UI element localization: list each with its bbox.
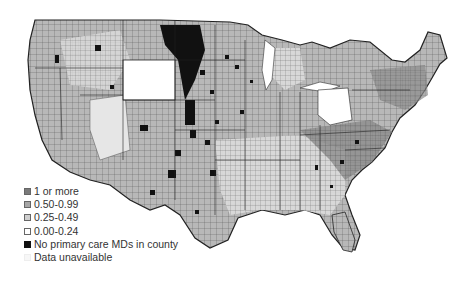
legend-item-0-00-0-24: 0.00-0.24 (24, 225, 178, 238)
legend-label: 0.25-0.49 (34, 211, 78, 224)
legend-swatch (24, 214, 31, 221)
legend-item-1-or-more: 1 or more (24, 185, 178, 198)
legend-swatch (24, 188, 31, 195)
legend-item-no-primary-care: No primary care MDs in county (24, 238, 178, 251)
legend-swatch (24, 254, 31, 261)
legend-swatch (24, 201, 31, 208)
legend-label: 0.50-0.99 (34, 198, 78, 211)
legend-label: No primary care MDs in county (34, 238, 178, 251)
legend-item-0-25-0-49: 0.25-0.49 (24, 211, 178, 224)
map-legend: 1 or more 0.50-0.99 0.25-0.49 0.00-0.24 … (24, 185, 178, 264)
legend-label: 1 or more (34, 185, 79, 198)
legend-label: Data unavailable (34, 251, 112, 264)
legend-item-0-50-0-99: 0.50-0.99 (24, 198, 178, 211)
legend-swatch (24, 241, 31, 248)
legend-label: 0.00-0.24 (34, 225, 78, 238)
legend-swatch (24, 228, 31, 235)
legend-item-data-unavailable: Data unavailable (24, 251, 178, 264)
